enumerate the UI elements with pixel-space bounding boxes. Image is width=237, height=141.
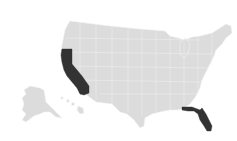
state-hawaii xyxy=(61,97,84,114)
state-alaska xyxy=(22,86,62,122)
us-map xyxy=(0,0,237,141)
state-florida[interactable] xyxy=(182,107,212,131)
contiguous-us xyxy=(61,21,232,128)
